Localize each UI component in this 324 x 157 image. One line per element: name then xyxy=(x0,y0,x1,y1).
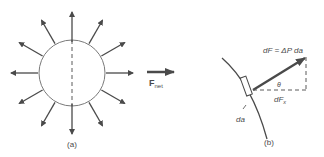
panel-b: da dF = ΔP da θ dFx (b) xyxy=(222,46,306,147)
surface-arc xyxy=(222,58,267,139)
panel-a: (a) xyxy=(11,12,133,149)
angle-label: θ xyxy=(277,81,281,88)
pressure-arrow xyxy=(19,90,42,104)
pressure-arrow xyxy=(42,20,56,43)
net-force-label: Fnet xyxy=(149,78,163,89)
net-force: Fnet xyxy=(147,72,174,89)
panel-b-label: (b) xyxy=(264,138,274,147)
pressure-arrow xyxy=(89,102,103,125)
component-label: dFx xyxy=(274,95,286,105)
area-element xyxy=(240,76,252,96)
pressure-arrow xyxy=(101,43,124,57)
pressure-arrow xyxy=(89,20,103,43)
pressure-arrow xyxy=(42,102,56,125)
pressure-arrow xyxy=(101,90,124,104)
area-leader-line xyxy=(243,105,246,109)
radial-pressure-arrows xyxy=(11,12,133,134)
pressure-arrow xyxy=(19,43,42,57)
panel-a-label: (a) xyxy=(67,140,77,149)
force-equation: dF = ΔP da xyxy=(263,46,303,55)
area-label: da xyxy=(236,115,245,124)
pressure-force-diagram: (a) Fnet da dF = ΔP da θ dFx (b) xyxy=(0,0,324,157)
